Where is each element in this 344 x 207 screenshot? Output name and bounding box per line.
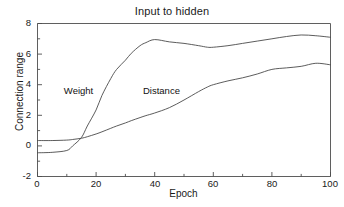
- chart-figure: Input to hidden Connection range Epoch 0…: [0, 0, 344, 207]
- x-tick-label: 60: [198, 178, 228, 189]
- x-tick-label: 100: [315, 178, 344, 189]
- series-annotation-weight: Weight: [64, 85, 93, 96]
- y-tick-label: 0: [9, 139, 31, 150]
- y-tick-label: 4: [9, 78, 31, 89]
- plot-area: [0, 0, 344, 207]
- x-tick-label: 20: [81, 178, 111, 189]
- y-tick-label: -2: [9, 170, 31, 181]
- y-tick-label: 2: [9, 109, 31, 120]
- series-annotation-distance: Distance: [143, 85, 180, 96]
- y-tick-label: 6: [9, 48, 31, 59]
- y-tick-label: 8: [9, 17, 31, 28]
- x-tick-label: 40: [140, 178, 170, 189]
- x-tick-label: 80: [257, 178, 287, 189]
- series-line-distance: [38, 63, 331, 140]
